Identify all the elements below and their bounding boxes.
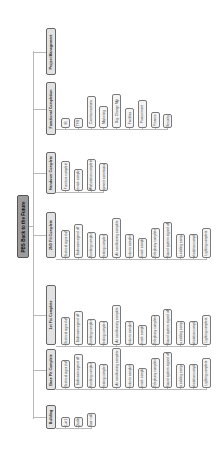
child-node-label: Workstation complete xyxy=(89,160,93,191)
connector-line xyxy=(33,52,46,53)
branch-node: 2ND Fit Complete xyxy=(46,212,56,258)
child-node-label: Fixtures complete xyxy=(128,364,132,388)
child-node: Workstation complete xyxy=(189,364,198,388)
child-node: Sound system signed off xyxy=(163,352,172,388)
connector-line xyxy=(142,345,143,347)
connector-line xyxy=(193,388,194,390)
child-node: Org. Change Mgt xyxy=(112,94,121,128)
connector-line xyxy=(206,388,207,390)
connector-line xyxy=(180,345,181,347)
branch-node: Handover Complete xyxy=(46,152,56,194)
child-node-label: Sound system signed off xyxy=(166,353,170,388)
child-node: Telephony complete xyxy=(151,228,160,258)
root-node-label: PBS Back to the Future xyxy=(21,201,26,252)
child-node: Telephony complete xyxy=(151,315,160,345)
child-node-label: Telephony complete xyxy=(153,316,157,344)
child-node: Plumbing complete xyxy=(87,319,96,345)
child-node: Floor walls xyxy=(87,413,96,427)
connector-line xyxy=(65,128,66,130)
child-node-label: Security xyxy=(166,115,170,127)
child-node: Electrical signed off xyxy=(61,317,70,345)
connector-line xyxy=(56,192,103,193)
connector-line xyxy=(78,388,79,390)
connector-line xyxy=(78,191,79,193)
branch-node-label: Handover Complete xyxy=(49,156,53,190)
child-node-label: Lot 1 xyxy=(64,418,68,425)
connector-line xyxy=(155,128,156,130)
connector-line xyxy=(116,128,117,130)
child-node-label: Telephony complete xyxy=(153,359,157,387)
child-node: Bathroom signed off xyxy=(74,224,83,258)
connector-line xyxy=(78,345,79,347)
connector-line xyxy=(33,417,46,418)
connector-line xyxy=(180,258,181,260)
child-node-label: Sound system signed off xyxy=(166,223,170,258)
child-node-label: Fixtures complete xyxy=(128,234,132,258)
child-node: Data cabling complete xyxy=(176,321,185,345)
connector-line xyxy=(91,345,92,347)
child-node-label: Org. Change Mgt xyxy=(115,99,119,123)
child-node-label: Telephony complete xyxy=(153,229,157,257)
child-node: Procurement xyxy=(138,100,147,128)
connector-line xyxy=(33,109,46,110)
child-node-label: Lighting complete xyxy=(204,361,208,386)
connector-line xyxy=(129,388,130,390)
connector-line xyxy=(206,345,207,347)
branch-node-label: Project Management xyxy=(49,34,53,69)
child-node: Sound system signed off xyxy=(163,222,172,258)
branch-node: Project Management xyxy=(46,28,56,75)
branch-node-label: Base Pit Complete xyxy=(49,354,53,386)
child-node-label: Bathroom signed off xyxy=(76,314,80,342)
child-node-label: Quality xyxy=(76,417,80,427)
child-node-label: Network complete xyxy=(140,368,144,388)
child-node: Lighting complete xyxy=(202,358,211,388)
child-node-label: Electrical signed off xyxy=(64,317,68,345)
connector-line xyxy=(167,345,168,347)
child-node: Fixtures complete xyxy=(125,234,134,258)
child-node-label: Communications xyxy=(89,100,93,124)
connector-line xyxy=(33,315,46,316)
child-node: Data cabling complete xyxy=(176,234,185,258)
child-node-label: Network complete xyxy=(140,325,144,345)
connector-line xyxy=(155,388,156,390)
child-node: Equipment commissioned xyxy=(99,163,108,191)
child-node: Finance xyxy=(151,112,160,128)
child-node: Network complete xyxy=(138,368,147,388)
child-node-label: Sound system signed off xyxy=(166,310,170,345)
child-node: Bathroom signed off xyxy=(74,311,83,345)
child-node-label: Lighting complete xyxy=(204,318,208,343)
child-node-label: Workstation complete xyxy=(192,321,196,345)
child-node: Marketing xyxy=(99,106,108,128)
connector-line xyxy=(116,258,117,260)
connector-line xyxy=(91,191,92,193)
child-node-label: Data cabling complete xyxy=(179,321,183,345)
connector-line xyxy=(91,388,92,390)
branch-node-label: 1st Fix Complete xyxy=(49,301,53,330)
connector-line xyxy=(33,173,46,174)
branch-node-label: 2ND Fit Complete xyxy=(49,220,53,250)
branch-node: Building xyxy=(46,405,56,429)
child-node: Lot 1 xyxy=(61,417,70,427)
child-node: Workstation complete xyxy=(189,234,198,258)
child-node-label: Plumbing complete xyxy=(89,319,93,345)
connector-line xyxy=(129,258,130,260)
child-node-label: Furniture complete xyxy=(64,163,68,190)
connector-line xyxy=(155,258,156,260)
child-node: Electrical signed off xyxy=(61,230,70,258)
branch-node: 1st Fix Complete xyxy=(46,285,56,345)
child-node-label: Facilities xyxy=(128,112,132,124)
connector-line xyxy=(103,128,104,130)
child-node-label: Equipment commissioned xyxy=(102,163,106,191)
connector-line xyxy=(65,345,66,347)
child-node-label: IR xyxy=(64,121,68,124)
child-node-label: Lighting complete xyxy=(204,231,208,256)
child-node: Lighting complete xyxy=(202,228,211,258)
connector-line xyxy=(65,191,66,193)
child-node: Bathroom signed off xyxy=(74,354,83,388)
connector-line xyxy=(129,128,130,130)
child-node: Data cabling complete xyxy=(176,364,185,388)
connector-line xyxy=(103,191,104,193)
child-node: Network complete xyxy=(138,238,147,258)
child-node-label: Heating complete xyxy=(102,234,106,258)
child-node: Plumbing complete xyxy=(87,232,96,258)
